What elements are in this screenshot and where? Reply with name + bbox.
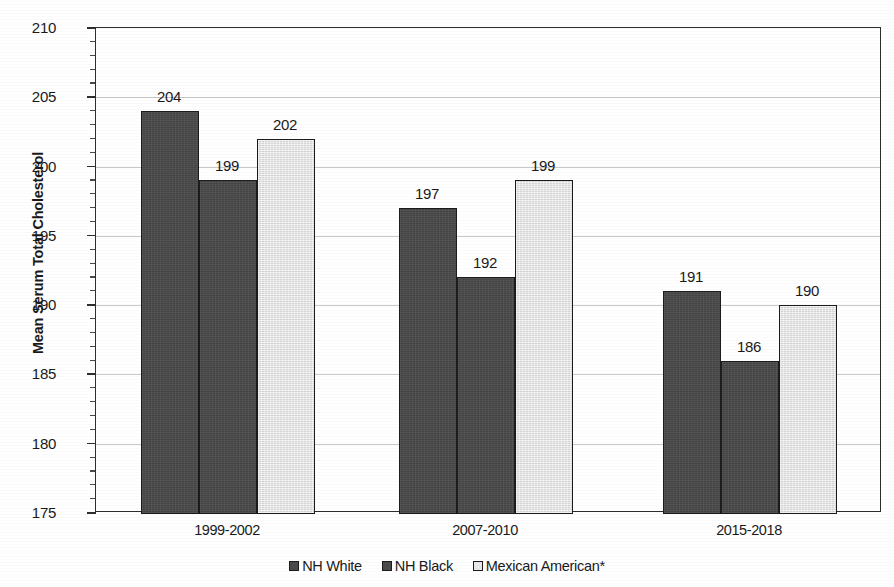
bar <box>779 305 837 514</box>
chart-legend: NH WhiteNH BlackMexican American* <box>0 558 894 574</box>
legend-label: Mexican American* <box>486 558 605 574</box>
x-axis-category-label: 1999-2002 <box>140 522 314 538</box>
legend-item[interactable]: NH Black <box>382 558 453 574</box>
bar <box>663 291 721 514</box>
bar <box>141 111 199 514</box>
x-axis-category-label: 2007-2010 <box>398 522 572 538</box>
legend-label: NH White <box>302 558 362 574</box>
bar <box>399 208 457 514</box>
bar <box>257 139 315 514</box>
legend-item[interactable]: Mexican American* <box>473 558 605 574</box>
legend-swatch-icon <box>289 561 299 571</box>
bar-chart: Mean Serum Total Cholesterol 17518018519… <box>0 0 894 587</box>
bar-value-label: 202 <box>256 117 314 132</box>
y-axis-tick-label: 195 <box>0 228 56 243</box>
bar <box>721 361 779 514</box>
legend-label: NH Black <box>395 558 453 574</box>
bar-value-label: 192 <box>456 255 514 270</box>
y-axis-tick-label: 190 <box>0 297 56 312</box>
legend-item[interactable]: NH White <box>289 558 362 574</box>
bar-value-label: 190 <box>778 283 836 298</box>
y-axis-tick-label: 185 <box>0 366 56 381</box>
bar-value-label: 186 <box>720 339 778 354</box>
y-axis-tick-label: 200 <box>0 159 56 174</box>
y-axis-tick-label: 175 <box>0 505 56 520</box>
legend-swatch-icon <box>382 561 392 571</box>
legend-swatch-icon <box>473 561 483 571</box>
y-axis-tick-label: 180 <box>0 436 56 451</box>
bar-value-label: 197 <box>398 186 456 201</box>
y-axis-tick-label: 210 <box>0 20 56 35</box>
bar-value-label: 204 <box>140 89 198 104</box>
y-axis-tick-major <box>87 512 96 514</box>
bar <box>457 277 515 514</box>
y-axis-title: Mean Serum Total Cholesterol <box>30 103 46 403</box>
bar-value-label: 191 <box>662 269 720 284</box>
bar <box>199 180 257 514</box>
gridline <box>96 97 880 98</box>
bar <box>515 180 573 514</box>
bar-value-label: 199 <box>514 158 572 173</box>
x-axis-category-label: 2015-2018 <box>662 522 836 538</box>
y-axis-tick-label: 205 <box>0 89 56 104</box>
bar-value-label: 199 <box>198 158 256 173</box>
